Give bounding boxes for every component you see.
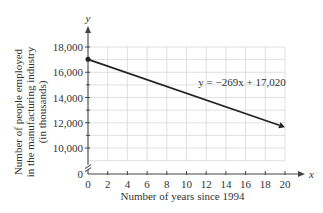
x-tick-label: 16 (240, 178, 252, 190)
x-tick-label: 20 (280, 178, 292, 190)
y-tick-label: 16,000 (53, 66, 84, 78)
grid (88, 47, 285, 161)
x-axis-arrowhead (298, 171, 305, 177)
y-axis-arrowhead (85, 26, 91, 33)
x-axis-variable-label: x (308, 168, 314, 180)
x-tick-label: 8 (164, 178, 170, 190)
x-tick-label: 4 (125, 178, 131, 190)
y-tick-label: 14,000 (53, 92, 84, 104)
chart: 02468101214161820010,00012,00014,00016,0… (0, 0, 323, 213)
x-tick-label: 14 (220, 178, 232, 190)
y-tick-label: 12,000 (53, 117, 84, 129)
axes (85, 26, 305, 177)
x-tick-label: 18 (260, 178, 272, 190)
x-tick-label: 12 (201, 178, 212, 190)
x-tick-label: 10 (181, 178, 193, 190)
series-line (88, 59, 279, 125)
y-axis-title: Number of people employed in the manufac… (12, 46, 49, 177)
y-tick-label: 10,000 (53, 142, 84, 154)
x-tick-label: 2 (105, 178, 111, 190)
y-axis-variable-label: y (85, 12, 91, 24)
series-start-point (86, 57, 91, 62)
y-axis-title-line-2: in the manufacturing industry (24, 46, 36, 177)
series (86, 57, 286, 128)
x-tick-label: 0 (85, 178, 91, 190)
x-tick-label: 6 (144, 178, 150, 190)
x-axis-title: Number of years since 1994 (120, 190, 245, 202)
y-tick-label: 18,000 (53, 41, 84, 53)
equation-annotation: y = −269x + 17,020 (198, 76, 286, 88)
y-tick-label: 0 (78, 168, 84, 180)
y-axis-title-line-1: Number of people employed (12, 48, 24, 175)
y-axis-title-line-3: (in thousands) (36, 80, 49, 143)
